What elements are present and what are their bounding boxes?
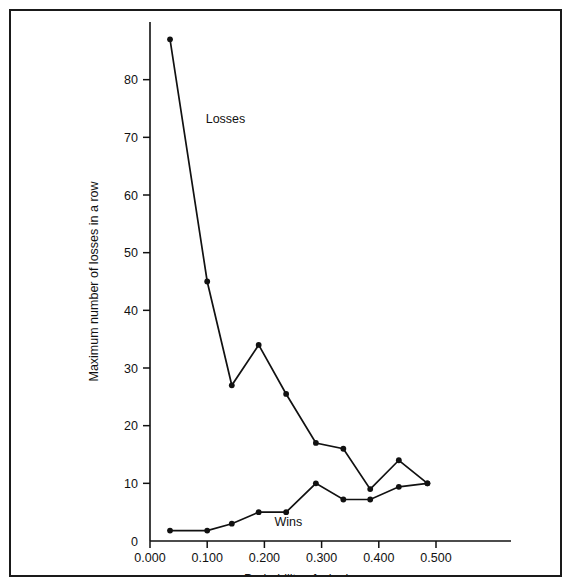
data-point-losses (229, 382, 235, 388)
x-tick-label: 0.100 (192, 551, 223, 565)
y-tick-label: 10 (124, 477, 138, 491)
x-tick-label: 0.300 (306, 551, 337, 565)
y-tick-label: 30 (124, 362, 138, 376)
series-line-losses (170, 39, 427, 489)
y-tick-label: 40 (124, 304, 138, 318)
series-label-wins: Wins (275, 515, 303, 529)
data-point-wins (340, 497, 346, 503)
line-chart-plot: 010203040506070800.0000.1000.2000.3000.4… (11, 11, 560, 575)
axis-titles-group: Probability of winningMaximum number of … (87, 180, 362, 575)
data-point-wins (367, 497, 373, 503)
x-tick-label: 0.200 (249, 551, 280, 565)
figure-border-frame: 010203040506070800.0000.1000.2000.3000.4… (9, 9, 562, 577)
data-point-wins (204, 528, 210, 534)
data-point-losses (283, 391, 289, 397)
x-tick-label: 0.000 (134, 551, 165, 565)
data-point-wins (396, 484, 402, 490)
x-tick-label: 0.400 (363, 551, 394, 565)
y-tick-label: 50 (124, 246, 138, 260)
data-point-wins (256, 509, 262, 515)
data-point-losses (313, 440, 319, 446)
data-point-wins (425, 480, 431, 486)
y-tick-label: 0 (131, 535, 138, 549)
figure-root: 010203040506070800.0000.1000.2000.3000.4… (0, 0, 573, 588)
series-group: LossesWins (167, 36, 430, 533)
data-point-losses (340, 446, 346, 452)
x-axis-title: Probability of winning (244, 572, 362, 575)
data-point-losses (204, 279, 210, 285)
data-point-wins (229, 521, 235, 527)
data-point-losses (367, 486, 373, 492)
data-point-losses (256, 342, 262, 348)
y-tick-label: 20 (124, 419, 138, 433)
y-axis-title: Maximum number of losses in a row (87, 180, 101, 381)
y-tick-label: 60 (124, 189, 138, 203)
data-point-losses (167, 36, 173, 42)
x-tick-label: 0.500 (420, 551, 451, 565)
y-tick-label: 80 (124, 73, 138, 87)
data-point-wins (167, 528, 173, 534)
series-label-losses: Losses (206, 112, 246, 126)
data-point-wins (313, 480, 319, 486)
data-point-losses (396, 457, 402, 463)
y-tick-label: 70 (124, 131, 138, 145)
